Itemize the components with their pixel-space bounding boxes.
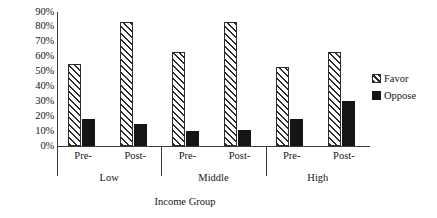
bar-favor bbox=[276, 67, 289, 146]
x-axis-group-label: High bbox=[266, 172, 370, 184]
y-axis-tick-label: 30% bbox=[2, 96, 54, 106]
y-axis-tick-label: 10% bbox=[2, 126, 54, 136]
group-separator bbox=[161, 146, 162, 176]
x-axis-tick-label: Post- bbox=[109, 150, 161, 162]
x-axis-title: Income Group bbox=[0, 196, 370, 207]
bar-favor bbox=[224, 22, 237, 146]
bar-favor bbox=[172, 52, 185, 146]
y-axis-tick-label: 20% bbox=[2, 111, 54, 121]
x-axis-tick-label: Post- bbox=[318, 150, 370, 162]
y-axis-tick-label: 50% bbox=[2, 66, 54, 76]
bar-oppose bbox=[186, 131, 199, 146]
x-axis-tick-label: Post- bbox=[214, 150, 266, 162]
x-axis-tick-label: Pre- bbox=[266, 150, 318, 162]
x-axis-tick-label: Pre- bbox=[57, 150, 109, 162]
y-axis-tick-label: 70% bbox=[2, 36, 54, 46]
x-axis-line bbox=[57, 146, 370, 147]
bar-chart: 90%80%70%60%50%40%30%20%10%0% Pre-Post-P… bbox=[0, 0, 437, 218]
legend-label-oppose: Oppose bbox=[384, 90, 416, 101]
bar-favor bbox=[328, 52, 341, 146]
y-axis-tick-labels: 90%80%70%60%50%40%30%20%10%0% bbox=[0, 0, 54, 218]
bar-oppose bbox=[134, 124, 147, 146]
legend-item-favor: Favor bbox=[372, 70, 437, 87]
x-axis-tick-label: Pre- bbox=[161, 150, 213, 162]
chart-legend: Favor Oppose bbox=[372, 70, 437, 104]
axis-left-tick bbox=[57, 146, 58, 176]
bar-oppose bbox=[82, 119, 95, 146]
y-axis-tick-label: 80% bbox=[2, 21, 54, 31]
y-axis-tick-label: 0% bbox=[2, 141, 54, 151]
bar-oppose bbox=[290, 119, 303, 146]
y-axis-tick-label: 90% bbox=[2, 7, 54, 17]
bar-oppose bbox=[238, 130, 251, 146]
plot-area bbox=[57, 12, 370, 146]
group-separator bbox=[266, 146, 267, 176]
hatch-swatch-icon bbox=[372, 74, 381, 83]
bar-favor bbox=[68, 64, 81, 146]
bar-favor bbox=[120, 22, 133, 146]
y-axis-tick-label: 40% bbox=[2, 81, 54, 91]
y-axis-tick-label: 60% bbox=[2, 51, 54, 61]
x-axis-group-label: Low bbox=[57, 172, 161, 184]
solid-swatch-icon bbox=[372, 91, 381, 100]
bar-oppose bbox=[342, 101, 355, 146]
x-axis-group-label: Middle bbox=[161, 172, 265, 184]
legend-label-favor: Favor bbox=[384, 73, 409, 84]
legend-item-oppose: Oppose bbox=[372, 87, 437, 104]
